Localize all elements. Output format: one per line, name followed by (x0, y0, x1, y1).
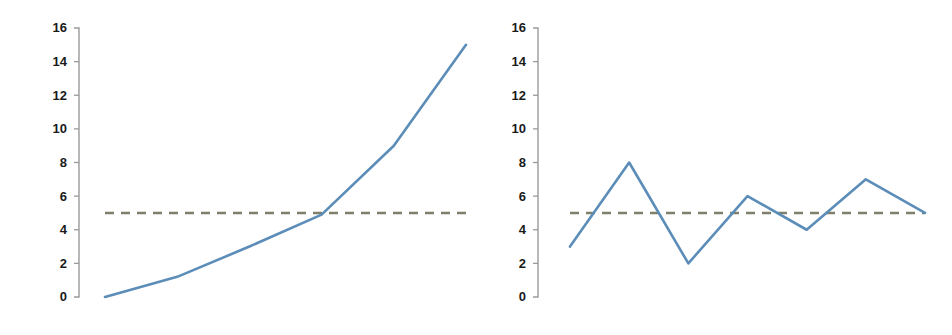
right-ytick-label: 6 (519, 189, 526, 204)
right-tick-labels: 1614121086420 (512, 20, 527, 304)
figure-canvas: 1614121086420 1614121086420 (0, 0, 952, 335)
left-y-axis (74, 28, 79, 297)
right-ytick-label: 2 (519, 256, 526, 271)
right-ytick-label: 0 (519, 289, 526, 304)
left-ytick-label: 14 (53, 54, 68, 69)
right-ytick-label: 14 (512, 54, 527, 69)
left-ytick-label: 16 (53, 20, 67, 35)
left-tick-labels: 1614121086420 (53, 20, 68, 304)
left-ytick-label: 2 (60, 256, 67, 271)
right-ytick-label: 12 (512, 88, 526, 103)
left-chart-panel: 1614121086420 (0, 0, 476, 335)
right-chart-plot: 1614121086420 (476, 0, 952, 335)
left-ytick-label: 8 (60, 155, 67, 170)
left-series-group (105, 45, 466, 297)
right-ytick-label: 8 (519, 155, 526, 170)
left-ytick-label: 0 (60, 289, 67, 304)
left-ytick-label: 10 (53, 121, 67, 136)
left-ytick-label: 12 (53, 88, 67, 103)
right-ytick-label: 10 (512, 121, 526, 136)
left-ytick-label: 6 (60, 189, 67, 204)
left-series-line (105, 45, 466, 297)
left-chart-plot: 1614121086420 (0, 0, 476, 335)
right-ytick-label: 16 (512, 20, 526, 35)
right-chart-panel: 1614121086420 (476, 0, 952, 335)
right-ytick-label: 4 (519, 222, 527, 237)
left-ytick-label: 4 (60, 222, 68, 237)
right-y-axis (533, 28, 538, 297)
